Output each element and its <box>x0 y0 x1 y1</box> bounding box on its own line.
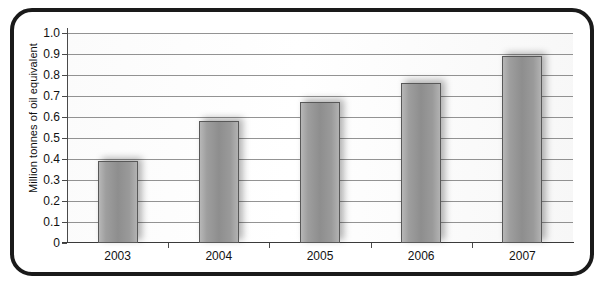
y-axis-tick-mark <box>62 243 67 244</box>
gridline <box>67 96 573 97</box>
x-axis-tick-mark <box>269 243 270 248</box>
y-axis-tick-label: 1.0 <box>26 27 60 39</box>
y-axis-tick-label: 0.6 <box>26 111 60 123</box>
gridline <box>67 75 573 76</box>
x-axis-tick-mark <box>472 243 473 248</box>
y-axis-tick-label: 0.2 <box>26 195 60 207</box>
x-axis-tick-mark <box>168 243 169 248</box>
y-axis-tick-label: 0.5 <box>26 132 60 144</box>
y-axis-tick-label: 0.9 <box>26 48 60 60</box>
x-axis-tick-label: 2003 <box>83 250 153 262</box>
y-axis-line <box>67 28 68 243</box>
gridline <box>67 33 573 34</box>
y-axis-tick-label: 0.1 <box>26 216 60 228</box>
x-axis-tick-label: 2004 <box>184 250 254 262</box>
plot-area <box>67 33 573 243</box>
bar-2007 <box>502 56 542 243</box>
bar-2005 <box>300 102 340 243</box>
x-axis-tick-label: 2005 <box>285 250 355 262</box>
bar-2003 <box>98 161 138 243</box>
y-axis-tick-label: 0.7 <box>26 90 60 102</box>
y-axis-tick-label: 0 <box>26 237 60 249</box>
bar-chart: Million tonnes of oil equivalent 1.00.90… <box>0 0 608 289</box>
y-axis-tick-label: 0.4 <box>26 153 60 165</box>
y-axis-tick-labels: 1.00.90.80.70.60.50.40.30.20.10 <box>26 0 60 289</box>
x-axis-tick-label: 2007 <box>487 250 557 262</box>
y-axis-tick-label: 0.3 <box>26 174 60 186</box>
bar-2004 <box>199 121 239 243</box>
bar-2006 <box>401 83 441 243</box>
gridline <box>67 54 573 55</box>
x-axis-tick-mark <box>371 243 372 248</box>
x-axis-tick-label: 2006 <box>386 250 456 262</box>
y-axis-tick-label: 0.8 <box>26 69 60 81</box>
